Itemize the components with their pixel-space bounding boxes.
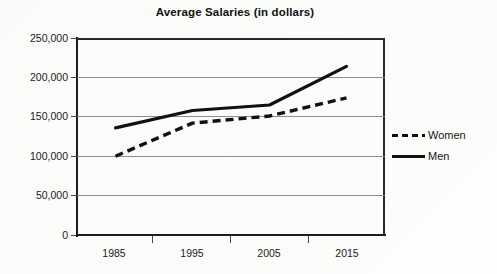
plot-area <box>77 38 385 235</box>
x-axis-tick <box>308 236 309 243</box>
y-tick-label: 250,000 <box>0 32 68 44</box>
gridline <box>77 195 385 196</box>
solid-line-icon <box>392 150 425 162</box>
dashed-line-icon <box>392 129 425 141</box>
gridline <box>77 77 385 78</box>
legend-item-men: Men <box>392 145 497 166</box>
x-axis-tick <box>152 236 153 243</box>
gridline <box>77 116 385 117</box>
y-tick-label: 0 <box>0 229 68 241</box>
chart-legend: Women Men <box>392 124 497 166</box>
x-tick-label: 1985 <box>84 247 144 259</box>
y-tick-label: 50,000 <box>0 189 68 201</box>
y-tick-label: 200,000 <box>0 71 68 83</box>
chart-figure: Average Salaries (in dollars) 250,000 20… <box>0 0 497 274</box>
x-tick-label: 2005 <box>239 247 299 259</box>
x-axis-tick <box>230 236 231 243</box>
legend-item-women: Women <box>392 124 497 145</box>
plot-right-border <box>383 38 385 235</box>
y-tick-label: 100,000 <box>0 150 68 162</box>
plot-top-border <box>77 38 385 40</box>
chart-title: Average Salaries (in dollars) <box>0 6 470 18</box>
legend-label: Men <box>425 150 449 162</box>
gridline <box>77 156 385 157</box>
x-tick-label: 2015 <box>317 247 377 259</box>
y-tick-label: 150,000 <box>0 110 68 122</box>
legend-label: Women <box>425 129 466 141</box>
x-tick-label: 1995 <box>162 247 222 259</box>
